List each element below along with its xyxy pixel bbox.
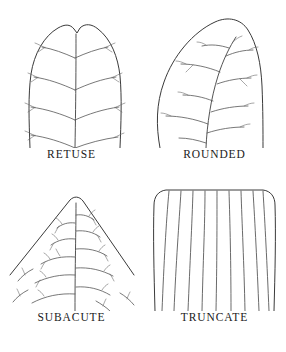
leaf-apex-figure: RETUSE ROUNDED SUBACUTE TRUNCATE: [0, 0, 286, 352]
rounded-vein-l4-twig: [161, 113, 171, 116]
rounded-vein-r4: [207, 127, 244, 133]
retuse-vein-2-left-twig: [28, 73, 38, 78]
retuse-vein-2-right: [75, 77, 116, 90]
caption-truncate: TRUNCATE: [143, 311, 286, 323]
subacute-branchlet-r1-t: [103, 299, 106, 306]
rounded-vein-r4-twig: [240, 124, 250, 127]
retuse-vein-3-left: [31, 107, 75, 120]
retuse-vein-2-right-twig-b: [112, 78, 119, 83]
subacute-vein-r1: [76, 215, 94, 220]
retuse-vein-1-right-twig: [105, 43, 115, 48]
rounded-vein-r3-twig: [244, 103, 254, 106]
retuse-vein-1-left: [42, 47, 75, 58]
rounded-vein-r2-twig: [247, 75, 257, 78]
panel-subacute: [0, 163, 143, 311]
subacute-vein-l5-t1: [38, 290, 44, 296]
subacute-branchlet-r2-t: [127, 292, 130, 299]
retuse-vein-1-right: [75, 47, 108, 58]
rounded-vein-l1: [202, 45, 229, 48]
truncate-vein-1: [162, 191, 169, 311]
subacute-vein-l4-t2: [36, 280, 40, 287]
subacute-vein-l5: [32, 294, 75, 303]
truncate-vein-2: [174, 191, 181, 311]
truncate-vein-9: [263, 191, 269, 311]
subacute-vein-l3-t3: [56, 249, 60, 256]
truncate-outline: [154, 190, 276, 311]
rounded-vein-l2-twig-b: [186, 65, 193, 72]
subacute-vein-l1: [57, 223, 75, 228]
rounded-vein-r1: [226, 50, 253, 56]
caption-subacute: SUBACUTE: [0, 311, 143, 323]
caption-rounded: ROUNDED: [143, 148, 286, 160]
subacute-vein-r2-t1: [93, 226, 99, 232]
retuse-vein-3-left-twig: [25, 103, 35, 108]
truncate-vein-8: [253, 191, 259, 311]
rounded-vein-r2-twig-b: [240, 79, 247, 86]
truncate-vein-5: [216, 191, 217, 311]
subacute-vein-r2: [76, 231, 100, 237]
rounded-vein-r3: [211, 106, 248, 112]
rounded-vein-l2-twig: [176, 61, 186, 64]
subacute-outline: [10, 197, 134, 275]
truncate-vein-4: [202, 191, 205, 311]
retuse-vein-2-left: [34, 77, 75, 90]
rounded-outline: [157, 19, 263, 148]
retuse-vein-2-left-twig-b: [31, 78, 38, 83]
retuse-midrib: [75, 34, 76, 148]
truncate-vein-3: [188, 191, 193, 311]
subacute-branchlet-l1-t: [22, 268, 25, 275]
subacute-vein-l2: [51, 239, 75, 245]
rounded-vein-l5: [179, 138, 206, 143]
subacute-vein-l1-t2: [55, 226, 59, 233]
retuse-vein-1-right-twig-b: [105, 48, 112, 53]
rounded-leaf-drawing: [143, 0, 286, 148]
rounded-vein-l3-twig: [178, 92, 188, 95]
retuse-vein-4-left: [31, 135, 75, 148]
subacute-vein-r3-t1: [99, 245, 105, 251]
subacute-leaf-drawing: [0, 163, 143, 311]
panel-truncate: [143, 163, 286, 311]
subacute-vein-l4-t1: [40, 271, 46, 277]
subacute-vein-l2-t1: [52, 234, 58, 240]
subacute-branchlet-l1: [18, 269, 33, 281]
subacute-branchlet-l2: [13, 290, 28, 302]
subacute-vein-r5: [76, 287, 110, 295]
subacute-vein-l1-t1: [56, 218, 62, 224]
rounded-vein-l4: [166, 116, 208, 124]
panel-retuse: [0, 0, 143, 148]
subacute-vein-l3: [41, 257, 75, 264]
truncate-vein-6: [229, 191, 231, 311]
subacute-vein-l3-t1: [44, 253, 50, 259]
subacute-vein-r4: [76, 268, 113, 276]
subacute-vein-r5-t1: [102, 284, 108, 290]
subacute-vein-l4: [35, 275, 75, 283]
truncate-leaf-drawing: [143, 163, 286, 311]
retuse-vein-4-right-twig: [114, 133, 124, 138]
truncate-vein-7: [241, 191, 245, 311]
retuse-vein-3-right-twig: [115, 103, 125, 108]
subacute-vein-r3: [76, 249, 107, 256]
retuse-vein-4-left-twig-b: [28, 136, 35, 141]
retuse-leaf-drawing: [0, 0, 143, 148]
subacute-branchlet-l2-t: [17, 289, 20, 296]
panel-rounded: [143, 0, 286, 148]
subacute-vein-r4-t1: [104, 265, 110, 271]
retuse-vein-4-right: [75, 137, 118, 148]
caption-retuse: RETUSE: [0, 148, 143, 160]
rounded-vein-l1-twig: [197, 42, 206, 45]
rounded-vein-r2: [217, 78, 251, 84]
retuse-vein-3-right: [75, 107, 119, 120]
rounded-vein-l3: [183, 95, 213, 101]
